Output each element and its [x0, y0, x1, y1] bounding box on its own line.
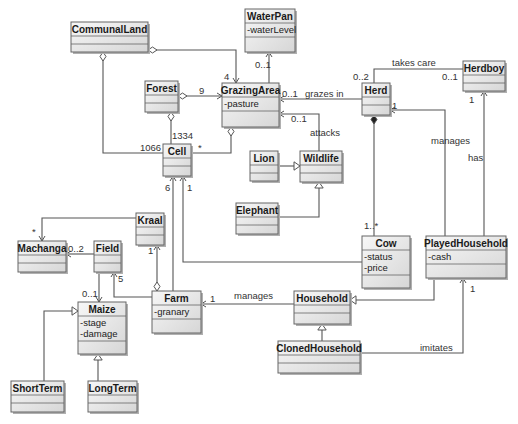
class-played-household[interactable]: PlayedHousehold-cash [424, 236, 508, 280]
edge-label: 1..* [364, 220, 379, 231]
edge-label: attacks [310, 127, 340, 138]
class-herdboy[interactable]: Herdboy [463, 61, 507, 93]
class-attribute: -cash [428, 251, 451, 262]
edge-short-term-to-maize[interactable] [44, 307, 78, 381]
edge-label: manages [431, 135, 470, 146]
class-name: Cell [168, 146, 187, 157]
connector-line [44, 311, 78, 381]
edge-label: 1 [210, 293, 215, 304]
class-communal-land[interactable]: CommunalLand [71, 22, 150, 54]
class-cow[interactable]: Cow-status-price [362, 236, 412, 290]
edge-label: 0..2 [353, 71, 369, 82]
edge-label: 0..1 [82, 288, 98, 299]
edge-farm-to-kraal[interactable] [154, 245, 160, 291]
class-lion[interactable]: Lion [250, 151, 280, 183]
edge-played-household-to-herd[interactable] [390, 107, 445, 236]
class-name: Elephant [236, 205, 279, 216]
edge-cloned-household-to-household[interactable] [318, 324, 326, 341]
class-elephant[interactable]: Elephant [236, 203, 280, 236]
edge-kraal-to-machanga[interactable] [39, 218, 136, 241]
class-grazing-area[interactable]: GrazingArea-pasture [221, 83, 281, 129]
class-name: Herdboy [464, 63, 505, 74]
edge-label: manages [234, 290, 273, 301]
class-name: LongTerm [88, 383, 136, 394]
class-cell[interactable]: Cell [163, 144, 193, 178]
class-kraal[interactable]: Kraal [136, 213, 166, 247]
class-name: Lion [253, 153, 274, 164]
class-attribute: -damage [80, 328, 118, 339]
edge-label: 0..1 [442, 71, 458, 82]
edge-elephant-to-wildlife[interactable] [278, 182, 323, 217]
class-name: GrazingArea [221, 85, 281, 96]
class-field[interactable]: Field [94, 241, 123, 274]
class-name: ClonedHousehold [276, 343, 362, 354]
class-long-term[interactable]: LongTerm [88, 381, 139, 414]
class-name: ShortTerm [13, 383, 63, 394]
edge-label: 1066 [140, 142, 161, 153]
class-attribute: -waterLevel [247, 24, 296, 35]
class-maize[interactable]: Maize-stage-damage [78, 302, 128, 356]
edge-label: 1 [392, 100, 397, 111]
generalization-arrow-icon [294, 162, 300, 170]
edge-cow-to-herd[interactable] [371, 115, 377, 236]
edge-long-term-to-maize[interactable] [94, 354, 102, 381]
edge-label: 1 [470, 283, 475, 294]
edge-label: 4 [224, 71, 229, 82]
class-attribute: -granary [154, 306, 190, 317]
class-name: Field [96, 243, 119, 254]
class-name: Cow [375, 238, 396, 249]
edge-farm-to-cell[interactable] [170, 176, 176, 291]
edge-label: 0..1 [291, 113, 307, 124]
class-machanga[interactable]: Machanga [18, 241, 68, 274]
edge-label: 6 [165, 182, 170, 193]
class-water-pan[interactable]: WaterPan-waterLevel [245, 9, 297, 54]
class-name: Kraal [137, 215, 162, 226]
class-name: WaterPan [247, 11, 293, 22]
edge-label: takes care [392, 57, 436, 68]
class-name: Herd [365, 85, 388, 96]
aggregation-diamond-icon [154, 282, 160, 291]
class-name: Forest [146, 83, 177, 94]
class-household[interactable]: Household [294, 291, 352, 326]
edge-label: 0..1 [255, 59, 271, 70]
generalization-arrow-icon [72, 307, 78, 315]
edge-label: grazes in [305, 88, 344, 99]
class-name: Wildlife [303, 153, 339, 164]
connector-line [42, 218, 136, 241]
edge-label: * [198, 142, 202, 153]
connector-line [148, 50, 236, 83]
class-cloned-household[interactable]: ClonedHousehold [276, 341, 362, 375]
edge-label: 1 [148, 245, 153, 256]
edge-label: imitates [420, 342, 453, 353]
edge-label: has [468, 152, 484, 163]
class-name: Farm [164, 293, 189, 304]
edge-label: 5 [118, 273, 123, 284]
edge-label: 0..2 [68, 243, 84, 254]
edge-played-household-to-herdboy[interactable] [481, 91, 487, 236]
class-name: CommunalLand [72, 24, 148, 35]
class-attribute: -price [364, 262, 388, 273]
class-attribute: -stage [80, 317, 106, 328]
class-forest[interactable]: Forest [145, 81, 180, 114]
edge-label: 9 [199, 85, 204, 96]
edge-label: 1334 [172, 130, 193, 141]
class-wildlife[interactable]: Wildlife [300, 151, 344, 184]
uml-class-diagram: CommunalLandWaterPan-waterLevelForestGra… [0, 0, 518, 424]
edge-label: * [32, 226, 36, 237]
class-farm[interactable]: Farm-granary [152, 291, 203, 335]
class-short-term[interactable]: ShortTerm [11, 381, 66, 414]
class-attribute: -status [364, 251, 393, 262]
edge-label: 1 [187, 182, 192, 193]
edge-lion-to-wildlife[interactable] [278, 162, 300, 170]
class-herd[interactable]: Herd [362, 83, 392, 117]
connector-line [278, 182, 319, 217]
class-name: Machanga [18, 243, 67, 254]
class-name: Household [296, 293, 348, 304]
class-name: Maize [88, 304, 116, 315]
connector-line [191, 127, 231, 153]
class-attribute: -pasture [224, 98, 259, 109]
edge-label: 1 [469, 94, 474, 105]
connector-line [390, 110, 445, 236]
class-name: PlayedHousehold [424, 238, 508, 249]
edge-label: 0..1 [282, 88, 298, 99]
